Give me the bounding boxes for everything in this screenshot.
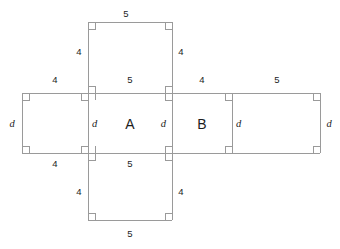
net-diagram: 5 4 4 4 5 4 5 d d A d B d d 4 5 4 4 5 bbox=[0, 0, 340, 249]
label-face-b: B bbox=[197, 117, 206, 131]
label-left-face-d: d bbox=[9, 119, 14, 130]
label-bottom-rect-left: 4 bbox=[76, 187, 81, 197]
label-face-b-right-d: d bbox=[236, 119, 241, 130]
label-strip-top-b: 4 bbox=[199, 75, 204, 85]
net-figure-svg bbox=[0, 0, 340, 249]
label-face-a: A bbox=[125, 117, 134, 131]
label-strip-top-left: 4 bbox=[52, 75, 57, 85]
label-right-face-d: d bbox=[326, 119, 331, 130]
label-bottom-rect-bottom: 5 bbox=[127, 229, 132, 239]
label-top-rect-top: 5 bbox=[123, 9, 128, 19]
right-face-area bbox=[232, 93, 320, 153]
label-strip-bottom-a: 5 bbox=[127, 159, 132, 169]
label-face-a-right-d: d bbox=[161, 119, 166, 130]
label-strip-top-a: 5 bbox=[127, 75, 132, 85]
label-top-rect-right: 4 bbox=[178, 47, 183, 57]
label-strip-top-right: 5 bbox=[274, 75, 279, 85]
left-face-area bbox=[22, 93, 88, 153]
label-bottom-rect-right: 4 bbox=[178, 187, 183, 197]
label-strip-bottom-left: 4 bbox=[52, 159, 57, 169]
label-top-rect-left: 4 bbox=[76, 47, 81, 57]
label-face-a-left-d: d bbox=[92, 119, 97, 130]
